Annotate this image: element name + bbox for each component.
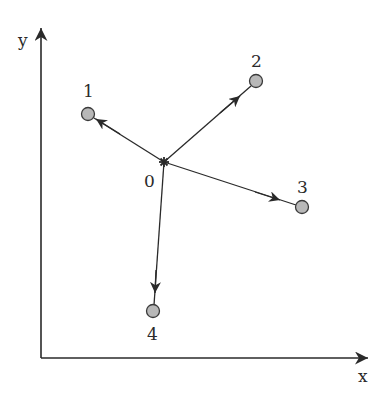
edge-0-1-arrow <box>96 119 120 134</box>
edge-0-2-arrow <box>220 96 240 113</box>
node-1: 1 <box>82 81 95 121</box>
node-label-3: 3 <box>297 177 308 197</box>
edges <box>94 86 296 305</box>
node-4: 4 <box>147 305 160 345</box>
edge-0-4-arrow <box>155 270 156 293</box>
node-2: 2 <box>250 51 263 88</box>
y-axis-label: y <box>17 30 28 50</box>
edge-0-3-arrow <box>255 192 280 200</box>
node-label-4: 4 <box>147 324 158 344</box>
vector-diagram: y x 0 1 2 3 4 <box>0 0 387 401</box>
node-label-2: 2 <box>251 51 262 71</box>
node-label-0: 0 <box>144 171 155 191</box>
node-3: 3 <box>296 177 309 214</box>
node-label-1: 1 <box>83 81 94 101</box>
x-axis-label: x <box>358 366 368 386</box>
center-star-icon <box>159 157 169 167</box>
